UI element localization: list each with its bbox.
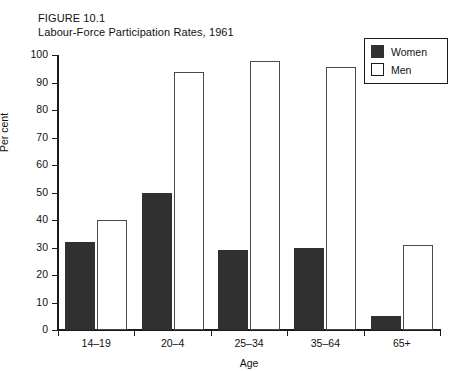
- x-axis-label-3: 25–34: [211, 337, 287, 349]
- y-tick-mark: [52, 55, 58, 56]
- legend-label: Women: [391, 46, 427, 58]
- y-tick-label: 80: [36, 103, 48, 115]
- x-axis-separator: [134, 330, 135, 336]
- y-tick-mark: [52, 83, 58, 84]
- y-tick-label: 90: [36, 76, 48, 88]
- y-tick-label: 70: [36, 131, 48, 143]
- legend-label: Men: [391, 64, 411, 76]
- figure-title: Labour-Force Participation Rates, 1961: [38, 25, 234, 39]
- bar-men-3: [250, 61, 280, 331]
- bar-men-4: [326, 67, 356, 330]
- x-axis-title: Age: [58, 357, 440, 369]
- x-axis-separator: [364, 330, 365, 336]
- x-axis-label-4: 35–64: [287, 337, 363, 349]
- x-axis-separator: [440, 330, 441, 336]
- bar-women-5: [371, 316, 401, 330]
- plot-area: 1009080706050403020100 14–1920–425–3435–…: [58, 55, 440, 330]
- bar-women-1: [65, 242, 95, 330]
- bar-women-3: [218, 250, 248, 330]
- y-tick-label: 10: [36, 296, 48, 308]
- bar-women-2: [142, 193, 172, 331]
- y-tick-mark: [52, 303, 58, 304]
- legend-swatch-icon: [371, 63, 384, 76]
- x-axis-separator: [211, 330, 212, 336]
- y-tick-label: 60: [36, 158, 48, 170]
- x-axis-label-2: 20–4: [134, 337, 210, 349]
- bar-men-1: [97, 220, 127, 330]
- figure-number: FIGURE 10.1: [38, 11, 234, 25]
- y-axis-title: Per cent: [0, 113, 10, 152]
- legend-swatch-icon: [371, 45, 384, 58]
- x-axis-label-1: 14–19: [58, 337, 134, 349]
- y-tick-mark: [52, 193, 58, 194]
- bar-men-2: [174, 72, 204, 331]
- y-tick-label: 0: [42, 323, 48, 335]
- figure-heading: FIGURE 10.1 Labour-Force Participation R…: [38, 11, 234, 39]
- y-tick-label: 20: [36, 268, 48, 280]
- legend-item-women: Women: [371, 44, 441, 59]
- legend-item-men: Men: [371, 62, 441, 77]
- y-tick-label: 40: [36, 213, 48, 225]
- bar-women-4: [294, 248, 324, 331]
- chart-legend: WomenMen: [364, 38, 448, 84]
- x-axis-separator: [58, 330, 59, 336]
- y-tick-mark: [52, 138, 58, 139]
- y-tick-mark: [52, 248, 58, 249]
- y-tick-mark: [52, 275, 58, 276]
- y-tick-mark: [52, 165, 58, 166]
- x-axis-label-5: 65+: [364, 337, 440, 349]
- y-tick-label: 50: [36, 186, 48, 198]
- bar-men-5: [403, 245, 433, 330]
- y-tick-mark: [52, 110, 58, 111]
- y-tick-mark: [52, 220, 58, 221]
- y-tick-label: 100: [30, 48, 48, 60]
- x-axis-separator: [287, 330, 288, 336]
- y-tick-label: 30: [36, 241, 48, 253]
